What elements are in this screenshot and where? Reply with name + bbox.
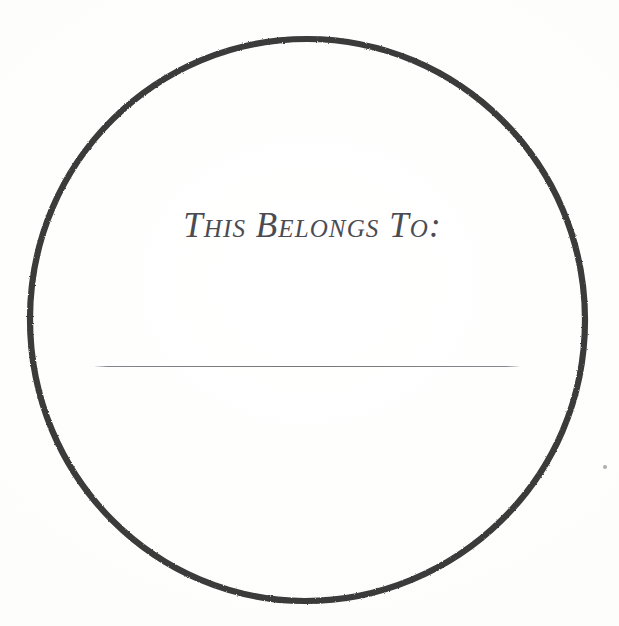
signature-line[interactable]	[95, 366, 519, 367]
scan-speck-artifact	[603, 465, 607, 469]
hand-drawn-circle-border	[0, 0, 619, 626]
page-canvas: This Belongs To:	[0, 0, 619, 626]
